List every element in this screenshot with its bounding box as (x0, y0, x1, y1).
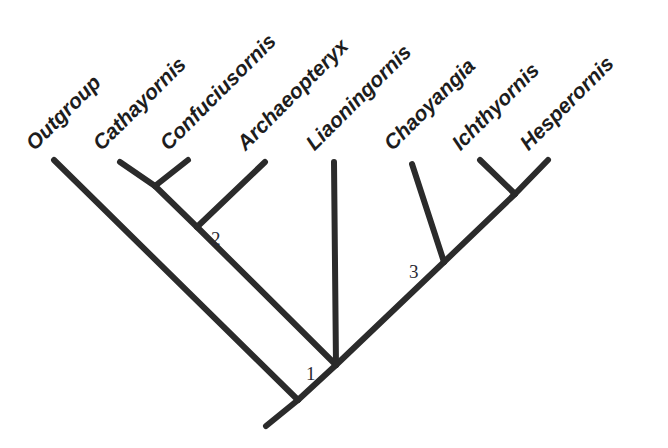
branch-node-3a-to-hesperornis (515, 160, 548, 194)
branch-node-3a-to-ichthyornis (480, 160, 515, 194)
branch-node-2a-to-cathayornis (120, 162, 155, 186)
branch-root-to-outgroup-tip (54, 160, 298, 400)
branch-node-3-to-chaoyangia (412, 164, 444, 262)
branch-node-2-to-node-2a (155, 186, 197, 227)
branch-root-to-root-stem (266, 400, 298, 426)
branch-node-3-to-node-3a (444, 194, 515, 262)
node-number-label-node-2: 2 (211, 228, 221, 250)
node-number-label-node-3: 3 (409, 261, 419, 283)
branch-root-to-node-1 (298, 365, 336, 400)
cladogram-figure: OutgroupCathayornisConfuciusornisArchaeo… (0, 0, 668, 448)
branch-group (54, 160, 548, 426)
branch-node-2a-to-confuciusornis (155, 160, 188, 186)
branch-node-1-to-liaoningornis (334, 162, 336, 365)
node-number-label-node-1: 1 (306, 363, 316, 385)
branch-node-2-to-archaeopteryx (197, 162, 265, 227)
branch-node-1-to-node-3 (336, 262, 444, 365)
